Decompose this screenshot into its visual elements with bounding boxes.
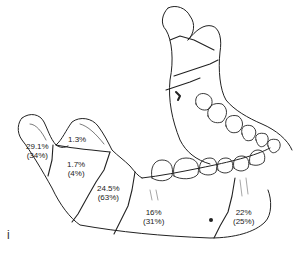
region-label-condyle: 29.1% (34%): [26, 142, 49, 160]
region-label-coronoid: 1.3%: [68, 135, 86, 144]
mental-foramen-icon: [209, 218, 213, 222]
region-label-body: 16% (31%): [143, 208, 164, 226]
mandible-diagram: 29.1% (34%) 1.3% 1.7% (4%) 24.5% (63%) 1…: [0, 0, 295, 255]
region-label-angle: 24.5% (63%): [97, 184, 120, 202]
region-label-symphysis: 22% (25%): [233, 208, 254, 226]
region-label-ramus: 1.7% (4%): [67, 160, 85, 178]
panel-label: i: [7, 228, 10, 242]
